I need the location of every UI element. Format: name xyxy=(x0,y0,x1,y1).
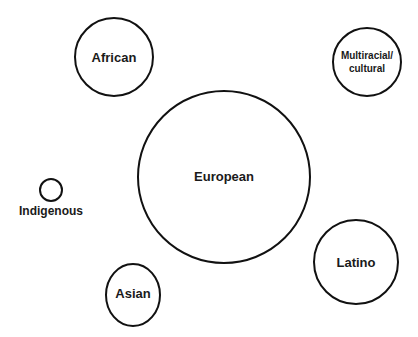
bubble-african: African xyxy=(75,18,153,96)
label-indigenous: Indigenous xyxy=(19,204,83,218)
label-multiracial-line1: Multiracial/ xyxy=(341,50,393,61)
bubble-asian: Asian xyxy=(106,264,160,326)
bubble-latino: Latino xyxy=(314,220,398,304)
label-asian: Asian xyxy=(115,286,150,301)
bubble-european: European xyxy=(138,91,310,263)
bubble-indigenous: Indigenous xyxy=(19,179,83,218)
bubble-multiracial: Multiracial/ cultural xyxy=(333,28,401,96)
label-european: European xyxy=(194,169,254,184)
label-multiracial-line2: cultural xyxy=(349,63,385,74)
bubble-diagram: African Multiracial/ cultural Indigenous… xyxy=(0,0,418,337)
label-african: African xyxy=(92,50,137,65)
label-latino: Latino xyxy=(337,255,376,270)
